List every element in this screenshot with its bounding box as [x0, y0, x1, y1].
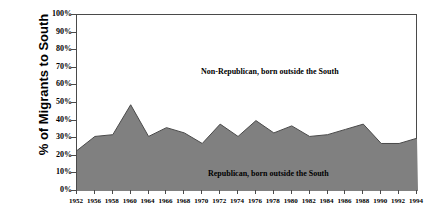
x-axis-tick-mark — [148, 190, 149, 194]
x-axis-tick-mark — [291, 190, 292, 194]
y-axis-tick-label: 50% — [36, 98, 72, 106]
y-axis-tick-mark — [71, 172, 76, 173]
y-axis-tick-mark — [71, 120, 76, 121]
x-axis-tick-mark — [183, 190, 184, 194]
y-axis-tick-mark — [71, 32, 76, 33]
x-axis-tick-mark — [94, 190, 95, 194]
y-axis-tick-label: 20% — [36, 151, 72, 159]
y-axis-tick-mark — [71, 155, 76, 156]
y-axis-tick-label: 100% — [36, 10, 72, 18]
x-axis-tick-mark — [130, 190, 131, 194]
y-axis-tick-mark — [71, 102, 76, 103]
x-axis-tick-mark — [201, 190, 202, 194]
y-axis-tick-label: 70% — [36, 63, 72, 71]
annotation-republican: Republican, born outside the South — [208, 169, 329, 178]
x-axis-tick-label: 1994 — [401, 197, 429, 206]
x-axis-tick-mark — [112, 190, 113, 194]
y-axis-tick-mark — [71, 49, 76, 50]
chart-container: % of Migrants to South 100%90%80%70%60%5… — [0, 0, 429, 219]
x-axis-tick-mark — [416, 190, 417, 194]
x-axis-tick-mark — [237, 190, 238, 194]
plot-area: Non-Republican, born outside the South R… — [76, 14, 417, 190]
y-axis-tick-label: 40% — [36, 116, 72, 124]
x-axis-tick-mark — [219, 190, 220, 194]
area-chart-svg — [77, 15, 418, 191]
x-axis-tick-mark — [327, 190, 328, 194]
y-axis-tick-mark — [71, 14, 76, 15]
x-axis-tick-mark — [380, 190, 381, 194]
republican-area-series — [77, 105, 418, 191]
y-axis-tick-label-group: 100%90%80%70%60%50%40%30%20%10%0% — [36, 14, 72, 190]
x-axis-tick-mark — [362, 190, 363, 194]
y-axis-tick-label: 60% — [36, 80, 72, 88]
x-axis-tick-mark — [76, 190, 77, 194]
x-axis-tick-mark — [255, 190, 256, 194]
y-axis-tick-label: 10% — [36, 168, 72, 176]
x-axis-tick-label-group: 1952195619581960196419661968197019721974… — [76, 197, 417, 209]
y-axis-tick-mark — [71, 67, 76, 68]
x-axis-tick-mark — [309, 190, 310, 194]
x-axis-tick-mark — [398, 190, 399, 194]
y-axis-tick-mark — [71, 137, 76, 138]
x-axis-tick-mark — [165, 190, 166, 194]
x-axis-tick-mark — [273, 190, 274, 194]
y-axis-tick-label: 0% — [36, 186, 72, 194]
y-axis-tick-mark — [71, 84, 76, 85]
annotation-non-republican: Non-Republican, born outside the South — [201, 67, 339, 76]
y-axis-tick-label: 30% — [36, 133, 72, 141]
y-axis-tick-label: 90% — [36, 28, 72, 36]
y-axis-tick-label: 80% — [36, 45, 72, 53]
x-axis-tick-mark — [344, 190, 345, 194]
